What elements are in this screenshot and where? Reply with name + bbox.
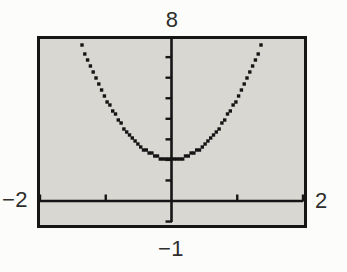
ymax-label: 8 [166, 9, 179, 31]
xmax-label: 2 [315, 190, 328, 212]
calculator-graph-figure: 8 −2 2 −1 [0, 0, 347, 272]
xmin-label: −2 [2, 189, 28, 211]
ymin-label: −1 [158, 238, 184, 260]
graph-window [37, 36, 307, 228]
